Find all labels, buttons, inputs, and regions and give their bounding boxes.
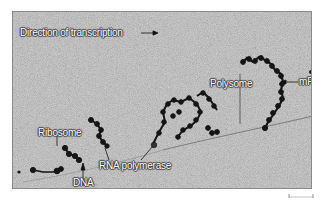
strand-ribosome xyxy=(30,145,81,173)
label-polysome: Polysome xyxy=(210,78,252,89)
annotation-pointers xyxy=(57,31,298,186)
label-ribosome: Ribosome xyxy=(38,127,81,138)
polysome-cluster-right xyxy=(241,56,285,131)
label-mrna: mRNA xyxy=(299,76,312,87)
label-dna: DNA xyxy=(73,177,94,188)
strand-rna-polymerase xyxy=(89,118,110,149)
electron-micrograph: Direction of transcription mRNA Polysome… xyxy=(12,11,312,189)
scale-bar xyxy=(288,194,314,198)
label-rna-polymerase: RNA polymerase xyxy=(99,160,171,171)
dna-strand xyxy=(163,116,312,150)
label-direction-of-transcription: Direction of transcription xyxy=(20,27,123,38)
